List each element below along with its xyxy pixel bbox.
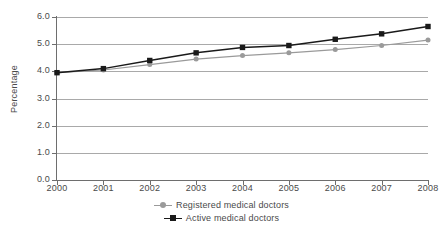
chart-legend: Registered medical doctors Active medica… — [0, 200, 443, 223]
data-point-marker — [286, 43, 291, 48]
data-point-marker — [101, 66, 106, 71]
grey-circle-marker-icon — [154, 201, 172, 210]
data-point-marker — [425, 24, 430, 29]
data-point-marker — [240, 45, 245, 50]
data-point-marker — [54, 70, 59, 75]
series-layer — [0, 0, 443, 232]
legend-item-active: Active medical doctors — [164, 213, 279, 223]
line-chart: Percentage 6.05.04.03.02.01.00.0 2000200… — [0, 0, 443, 232]
data-point-marker — [333, 47, 338, 52]
data-point-marker — [379, 31, 384, 36]
series-active — [54, 24, 430, 76]
data-point-marker — [286, 50, 291, 55]
data-point-marker — [193, 50, 198, 55]
data-point-marker — [333, 37, 338, 42]
data-point-marker — [240, 53, 245, 58]
black-square-marker-icon — [164, 214, 182, 223]
series-registered — [55, 38, 431, 76]
legend-label-registered: Registered medical doctors — [176, 200, 289, 210]
legend-item-registered: Registered medical doctors — [154, 200, 289, 210]
data-point-marker — [147, 58, 152, 63]
data-point-marker — [426, 38, 431, 43]
data-point-marker — [379, 43, 384, 48]
data-point-marker — [194, 57, 199, 62]
legend-label-active: Active medical doctors — [186, 213, 279, 223]
